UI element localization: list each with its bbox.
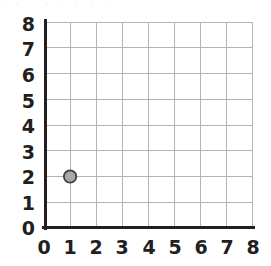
y-tick-label-4: 4 [11,117,35,136]
y-tick-label-2: 2 [11,168,35,187]
x-tick-label-1: 1 [59,238,81,257]
grid-lines [44,22,253,228]
y-tick-label-5: 5 [11,92,35,111]
x-tick-label-6: 6 [190,238,212,257]
x-tick-label-8: 8 [242,238,264,257]
y-tick-label-3: 3 [11,143,35,162]
plot-area [0,0,271,266]
data-point-marker [64,170,76,182]
x-tick-label-5: 5 [164,238,186,257]
x-tick-label-2: 2 [85,238,107,257]
y-tick-label-8: 8 [11,15,35,34]
x-tick-label-0: 0 [33,238,55,257]
y-tick-label-1: 1 [11,194,35,213]
y-tick-label-6: 6 [11,66,35,85]
y-tick-label-7: 7 [11,40,35,59]
x-tick-label-7: 7 [216,238,238,257]
coordinate-graph: · · · · · · · · [0,0,271,266]
x-tick-label-3: 3 [111,238,133,257]
y-tick-label-0: 0 [11,219,35,238]
x-tick-label-4: 4 [138,238,160,257]
